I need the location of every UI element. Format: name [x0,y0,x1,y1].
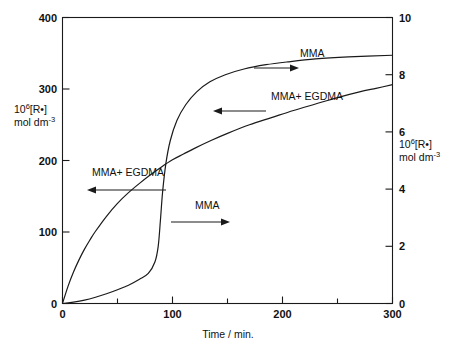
chart-figure: 400 300 200 100 0 10 8 6 4 2 0 [0,0,459,346]
x-tick-label-0: 0 [59,308,65,320]
annotation-label: MMA [300,47,325,59]
left-axis-title: 106[R•] mol dm-3 [14,102,55,128]
right-tick-label-8: 8 [399,69,405,81]
x-axis-ticks [63,297,393,304]
right-tick-label-10: 10 [399,12,411,24]
x-tick-label-100: 100 [163,308,181,320]
plot-frame [63,18,393,304]
right-axis-title-species: [R•] [415,138,432,150]
left-axis-ticks [63,18,70,304]
x-axis-title: Time / min. [202,328,254,340]
curve-mma-egdma [63,85,393,304]
left-axis-tick-labels: 400 300 200 100 0 [39,12,57,310]
left-axis-title-species: [R•] [30,103,47,115]
left-axis-title-base: 10 [14,103,26,115]
right-axis-title-denom: mol dm [399,151,434,163]
right-axis-title: 106[R•] mol dm-3 [399,137,440,163]
x-axis-tick-labels: 0 100 200 300 [59,308,401,320]
annotation-label: MMA+ EGDMA [271,90,343,102]
left-tick-label-0: 0 [51,298,57,310]
chart-svg: 400 300 200 100 0 10 8 6 4 2 0 [0,0,459,346]
svg-text:mol dm-3: mol dm-3 [14,115,55,128]
svg-text:106[R•]: 106[R•] [399,137,432,150]
arrow-head-left-icon [87,187,96,194]
arrow-head-right-icon [221,219,230,226]
right-tick-label-4: 4 [399,183,406,195]
svg-text:106[R•]: 106[R•] [14,102,47,115]
right-axis-title-base: 10 [399,138,411,150]
x-tick-label-200: 200 [273,308,291,320]
right-axis-ticks [386,18,393,304]
left-tick-label-300: 300 [39,83,57,95]
annotation-label: MMA [195,199,220,211]
annotation-label: MMA+ EGDMA [92,166,164,178]
left-tick-label-100: 100 [39,226,57,238]
annotation-mma-center: MMA [171,199,230,225]
arrow-head-right-icon [290,65,299,72]
annotation-mma-egdma-left: MMA+ EGDMA [87,166,166,193]
left-tick-label-400: 400 [39,12,57,24]
right-axis-title-denom-exp: -3 [433,150,440,159]
arrow-head-left-icon [213,108,222,115]
right-tick-label-2: 2 [399,240,405,252]
left-tick-label-200: 200 [39,155,57,167]
x-tick-label-300: 300 [383,308,401,320]
left-axis-title-denom: mol dm [14,116,49,128]
svg-text:mol dm-3: mol dm-3 [399,150,440,163]
left-axis-title-denom-exp: -3 [48,115,55,124]
right-tick-label-6: 6 [399,126,405,138]
